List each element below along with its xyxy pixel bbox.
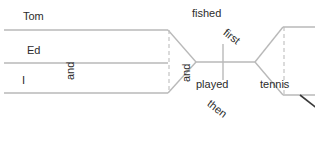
predicate-played-label: played — [196, 79, 228, 90]
object-tennis-label: tennis — [260, 79, 289, 90]
subject-i-label: I — [22, 75, 25, 86]
sentence-diagram: Tom Ed I and fished and played tennis fi… — [0, 0, 315, 147]
predicate-fished-label: fished — [192, 8, 221, 19]
subject-conjunction-label: and — [65, 62, 76, 80]
subject-tom-label: Tom — [23, 11, 44, 22]
subject-upper-converge-line — [168, 30, 196, 62]
subject-ed-label: Ed — [27, 45, 40, 56]
predicate-conjunction-label: and — [181, 64, 192, 82]
predicate-upper-fork-line — [255, 27, 283, 62]
diagram-canvas — [0, 0, 315, 147]
modifier-then-diagonal — [300, 95, 315, 138]
